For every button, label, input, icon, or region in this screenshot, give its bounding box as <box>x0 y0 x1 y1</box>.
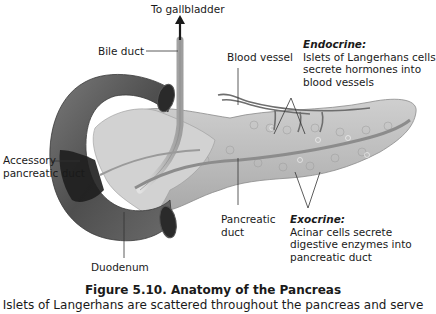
accessory-line-2: pancreatic duct <box>3 167 85 180</box>
endocrine-line-3: blood vessels <box>303 76 436 89</box>
pancreatic-duct-line-1: Pancreatic <box>221 213 276 226</box>
label-bile-duct: Bile duct <box>98 45 144 58</box>
label-pancreatic-duct: Pancreatic duct <box>221 213 276 238</box>
exocrine-line-3: pancreatic duct <box>290 251 412 264</box>
label-blood-vessel: Blood vessel <box>227 51 293 64</box>
endocrine-line-1: Islets of Langerhans cells <box>303 51 436 64</box>
endocrine-heading: Endocrine: <box>303 38 436 51</box>
endocrine-line-2: secrete hormones into <box>303 63 436 76</box>
label-accessory-pancreatic-duct: Accessory pancreatic duct <box>3 154 85 179</box>
label-endocrine: Endocrine: Islets of Langerhans cells se… <box>303 38 436 88</box>
label-duodenum: Duodenum <box>91 261 149 274</box>
pancreatic-duct-line-2: duct <box>221 226 276 239</box>
accessory-line-1: Accessory <box>3 154 85 167</box>
label-exocrine: Exocrine: Acinar cells secrete digestive… <box>290 213 412 263</box>
figure-caption: Islets of Langerhans are scattered throu… <box>0 298 426 312</box>
label-to-gallbladder: To gallbladder <box>151 3 224 16</box>
exocrine-line-1: Acinar cells secrete <box>290 226 412 239</box>
gallbladder-arrow <box>175 15 185 40</box>
figure-title: Figure 5.10. Anatomy of the Pancreas <box>0 283 426 297</box>
exocrine-line-2: digestive enzymes into <box>290 238 412 251</box>
exocrine-heading: Exocrine: <box>290 213 412 226</box>
